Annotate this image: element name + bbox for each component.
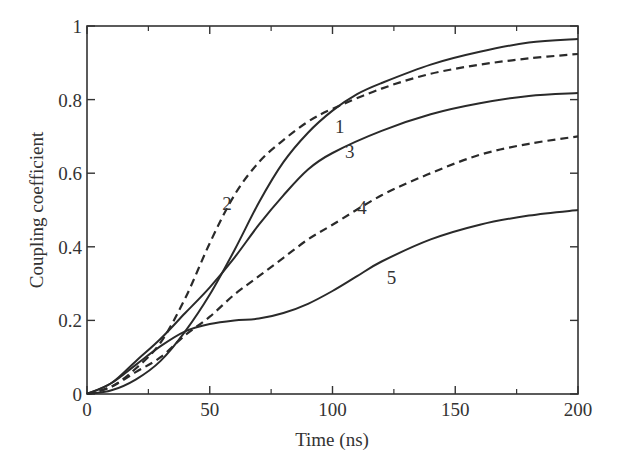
x-tick-label: 200: [564, 399, 593, 420]
x-tick-label: 150: [441, 399, 470, 420]
x-tick-label: 100: [318, 399, 347, 420]
y-tick-label: 0.8: [58, 90, 82, 111]
data-curves: [87, 39, 578, 394]
y-tick-label: 0.6: [58, 163, 82, 184]
x-tick-label: 50: [200, 399, 219, 420]
y-tick-label: 0: [73, 384, 83, 405]
y-tick-label: 0.2: [58, 310, 82, 331]
y-tick-label: 0.4: [58, 237, 82, 258]
curve-label-5: 5: [387, 267, 397, 288]
curve-label-3: 3: [345, 141, 355, 162]
curve-label-1: 1: [335, 116, 345, 137]
y-axis-title: Coupling coefficient: [26, 131, 47, 288]
curve-label-4: 4: [357, 197, 367, 218]
curve-label-2: 2: [222, 193, 232, 214]
coupling-coefficient-chart: 05010015020000.20.40.60.81 12345 Time (n…: [0, 0, 620, 461]
curve-4: [87, 136, 578, 394]
y-tick-label: 1: [73, 16, 83, 37]
curve-3: [87, 93, 578, 394]
x-axis-title: Time (ns): [295, 429, 369, 451]
x-tick-label: 0: [82, 399, 92, 420]
curve-5: [87, 210, 578, 394]
